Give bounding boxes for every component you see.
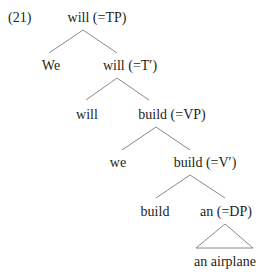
- syntax-tree: (21) will (=TP) We will (=T′) will build…: [0, 0, 269, 272]
- node-tp: will (=TP): [68, 10, 127, 26]
- edge-vbar-vhead: [156, 175, 190, 198]
- edge-tp-spec: [49, 30, 83, 53]
- edge-vbar-dp: [190, 175, 225, 198]
- node-dp-content: an airplane: [194, 254, 256, 269]
- edge-vp-spec: [122, 127, 156, 150]
- node-v-bar: build (=V′): [174, 155, 237, 171]
- edge-tbar-thead: [86, 78, 117, 100]
- edge-vp-vbar: [156, 127, 190, 150]
- dp-triangle: [196, 224, 253, 248]
- node-v-head: build: [141, 204, 170, 219]
- node-t-head: will: [76, 107, 98, 122]
- edge-tp-tbar: [83, 30, 117, 53]
- node-t-bar: will (=T′): [103, 58, 157, 74]
- example-number: (21): [8, 10, 32, 26]
- node-vp: build (=VP): [138, 107, 206, 123]
- node-spec-vp: we: [110, 155, 126, 170]
- node-dp: an (=DP): [200, 204, 252, 220]
- edge-tbar-vp: [117, 78, 149, 100]
- node-spec-tp: We: [42, 58, 60, 73]
